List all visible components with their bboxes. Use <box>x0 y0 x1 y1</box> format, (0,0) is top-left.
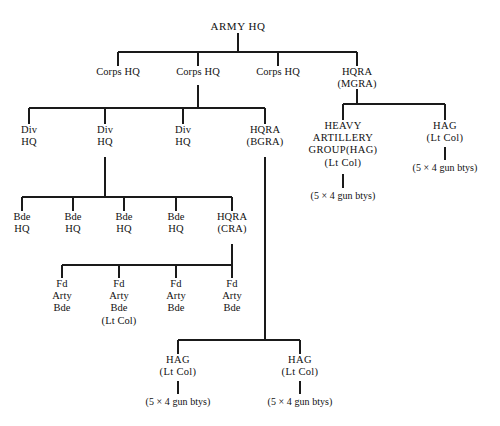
node-corps-hq-3[interactable]: Corps HQ <box>256 66 300 78</box>
node-fd-arty-bde-1-line1: Fd <box>52 278 72 290</box>
node-corps-hq-1[interactable]: Corps HQ <box>96 66 140 78</box>
node-bde-hq-1-line1: Bde <box>13 211 30 223</box>
node-hqra-bgra[interactable]: HQRA (BGRA) <box>247 124 284 148</box>
node-hqra-bgra-line2: (BGRA) <box>247 136 284 148</box>
node-fd-arty-bde-3-line3: Bde <box>166 302 186 314</box>
node-hag-bgra-1-rank: (Lt Col) <box>160 366 197 378</box>
node-bde-hq-4[interactable]: Bde HQ <box>167 211 184 235</box>
note-btys-hag-mgra: (5 × 4 gun btys) <box>413 162 478 174</box>
node-army-hq-line1: ARMY HQ <box>210 20 265 33</box>
node-fd-arty-bde-4[interactable]: Fd Arty Bde <box>222 278 242 315</box>
node-hag-bgra-2[interactable]: HAG (Lt Col) <box>282 354 319 378</box>
note-btys-hag-bgra-1-text: (5 × 4 gun btys) <box>146 396 211 408</box>
node-div-hq-3-line1: Div <box>175 124 191 136</box>
node-div-hq-1[interactable]: Div HQ <box>21 124 37 148</box>
node-heavy-artillery-group-line3: GROUP(HAG) <box>309 144 378 156</box>
node-heavy-artillery-group-rank: (Lt Col) <box>309 157 378 169</box>
node-bde-hq-4-line1: Bde <box>167 211 184 223</box>
node-hqra-cra[interactable]: HQRA (CRA) <box>217 211 247 235</box>
node-fd-arty-bde-1[interactable]: Fd Arty Bde <box>52 278 72 315</box>
node-heavy-artillery-group-line1: HEAVY <box>309 120 378 132</box>
node-fd-arty-bde-3-line2: Arty <box>166 290 186 302</box>
node-div-hq-1-line2: HQ <box>21 136 37 148</box>
node-div-hq-1-line1: Div <box>21 124 37 136</box>
node-corps-hq-2[interactable]: Corps HQ <box>176 66 220 78</box>
node-hqra-mgra[interactable]: HQRA (MGRA) <box>337 66 376 90</box>
node-bde-hq-1-line2: HQ <box>13 223 30 235</box>
node-fd-arty-bde-1-line3: Bde <box>52 302 72 314</box>
node-bde-hq-2-line1: Bde <box>64 211 81 223</box>
node-div-hq-2-line2: HQ <box>97 136 113 148</box>
node-bde-hq-1[interactable]: Bde HQ <box>13 211 30 235</box>
node-hqra-bgra-line1: HQRA <box>247 124 284 136</box>
node-div-hq-3[interactable]: Div HQ <box>175 124 191 148</box>
node-corps-hq-3-line1: Corps HQ <box>256 66 300 78</box>
node-fd-arty-bde-2-line2: Arty <box>102 290 137 302</box>
node-fd-arty-bde-2[interactable]: Fd Arty Bde (Lt Col) <box>102 278 137 327</box>
node-bde-hq-3-line1: Bde <box>115 211 132 223</box>
node-fd-arty-bde-2-line3: Bde <box>102 302 137 314</box>
node-fd-arty-bde-3-line1: Fd <box>166 278 186 290</box>
note-btys-hag-bgra-2-text: (5 × 4 gun btys) <box>268 396 333 408</box>
node-hag-mgra[interactable]: HAG (Lt Col) <box>427 120 464 144</box>
note-btys-heavy-group: (5 × 4 gun btys) <box>311 190 376 202</box>
note-btys-hag-bgra-2: (5 × 4 gun btys) <box>268 396 333 408</box>
node-bde-hq-4-line2: HQ <box>167 223 184 235</box>
node-army-hq[interactable]: ARMY HQ <box>210 20 265 33</box>
node-fd-arty-bde-2-line1: Fd <box>102 278 137 290</box>
node-heavy-artillery-group-line2: ARTILLERY <box>309 132 378 144</box>
node-fd-arty-bde-4-line2: Arty <box>222 290 242 302</box>
node-bde-hq-3[interactable]: Bde HQ <box>115 211 132 235</box>
node-hag-bgra-1-line1: HAG <box>160 354 197 366</box>
node-fd-arty-bde-1-line2: Arty <box>52 290 72 302</box>
node-fd-arty-bde-3[interactable]: Fd Arty Bde <box>166 278 186 315</box>
node-hag-bgra-2-line1: HAG <box>282 354 319 366</box>
node-corps-hq-2-line1: Corps HQ <box>176 66 220 78</box>
node-div-hq-2-line1: Div <box>97 124 113 136</box>
note-btys-hag-bgra-1: (5 × 4 gun btys) <box>146 396 211 408</box>
node-hag-bgra-2-rank: (Lt Col) <box>282 366 319 378</box>
node-fd-arty-bde-4-line3: Bde <box>222 302 242 314</box>
node-bde-hq-3-line2: HQ <box>115 223 132 235</box>
node-hag-mgra-rank: (Lt Col) <box>427 132 464 144</box>
node-hag-bgra-1[interactable]: HAG (Lt Col) <box>160 354 197 378</box>
node-bde-hq-2[interactable]: Bde HQ <box>64 211 81 235</box>
node-corps-hq-1-line1: Corps HQ <box>96 66 140 78</box>
node-fd-arty-bde-4-line1: Fd <box>222 278 242 290</box>
note-btys-heavy-group-text: (5 × 4 gun btys) <box>311 190 376 202</box>
node-hqra-mgra-line1: HQRA <box>337 66 376 78</box>
node-div-hq-2[interactable]: Div HQ <box>97 124 113 148</box>
node-hqra-cra-line1: HQRA <box>217 211 247 223</box>
org-chart-diagram: ARMY HQ Corps HQ Corps HQ Corps HQ HQRA … <box>0 0 500 426</box>
node-fd-arty-bde-2-rank: (Lt Col) <box>102 315 137 327</box>
node-hqra-cra-line2: (CRA) <box>217 223 247 235</box>
note-btys-hag-mgra-text: (5 × 4 gun btys) <box>413 162 478 174</box>
node-hag-mgra-line1: HAG <box>427 120 464 132</box>
node-heavy-artillery-group[interactable]: HEAVY ARTILLERY GROUP(HAG) (Lt Col) <box>309 120 378 169</box>
node-hqra-mgra-line2: (MGRA) <box>337 78 376 90</box>
node-div-hq-3-line2: HQ <box>175 136 191 148</box>
node-bde-hq-2-line2: HQ <box>64 223 81 235</box>
